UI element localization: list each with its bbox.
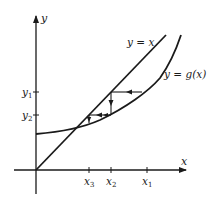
cobweb-diagram: y x y = x y = g(x) y1 y2 x3 x2 x1 [0,0,217,208]
x1-label: x1 [142,175,152,189]
g-curve-label: y = g(x) [163,68,206,80]
arrow-left-icon [96,113,102,118]
y2-label: y2 [21,109,32,123]
identity-line-label: y = x [126,36,154,48]
identity-line [36,35,166,170]
g-curve [36,35,181,134]
y1-label: y1 [21,86,32,100]
y-axis-label: y [40,12,48,25]
arrow-down-icon [109,100,114,106]
arrow-left-icon [126,90,132,95]
x-axis-label: x [181,155,188,168]
arrow-down-icon [87,117,91,122]
x3-label: x3 [84,175,94,189]
x2-label: x2 [106,175,116,189]
